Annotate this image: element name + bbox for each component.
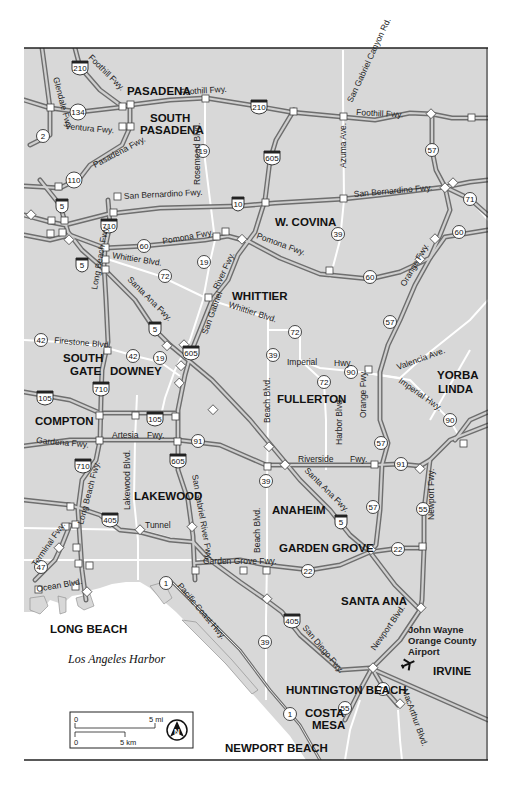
shield-number: 39 bbox=[334, 230, 343, 239]
state-route-shield-icon: 60 bbox=[364, 271, 377, 284]
shield-number: 19 bbox=[200, 258, 209, 267]
state-route-shield-icon: 110 bbox=[66, 172, 82, 188]
state-route-shield-icon: 90 bbox=[444, 414, 457, 427]
shield-number: 22 bbox=[304, 567, 313, 576]
shield-number: 605 bbox=[184, 349, 198, 358]
shield-number: 39 bbox=[269, 351, 278, 360]
state-route-shield-icon: 72 bbox=[289, 326, 302, 339]
shield-number: 57 bbox=[369, 503, 378, 512]
shield-number: 60 bbox=[140, 242, 149, 251]
shield-number: 39 bbox=[262, 477, 271, 486]
shield-number: 605 bbox=[265, 154, 279, 163]
shield-number: 72 bbox=[161, 272, 170, 281]
interstate-shield-icon: 5 bbox=[56, 199, 68, 213]
state-route-shield-icon: 57 bbox=[367, 501, 380, 514]
road-label: Garden Grove Fwy. bbox=[203, 556, 277, 566]
city-label: FULLERTON bbox=[277, 393, 346, 405]
compass-label: N bbox=[174, 727, 180, 736]
shield-number: 110 bbox=[68, 176, 81, 185]
shield-number: 39 bbox=[261, 638, 270, 647]
shield-number: 1 bbox=[164, 579, 169, 588]
interstate-shield-icon: 210 bbox=[251, 100, 267, 114]
interstate-shield-icon: 605 bbox=[264, 151, 280, 165]
shield-number: 710 bbox=[76, 462, 90, 471]
shield-number: 5 bbox=[153, 325, 158, 334]
city-label: DOWNEY bbox=[110, 365, 162, 377]
interstate-shield-icon: 5 bbox=[76, 258, 88, 272]
state-route-shield-icon: 1 bbox=[284, 708, 297, 721]
interstate-shield-icon: 605 bbox=[183, 346, 199, 360]
road-label: Beach Blvd. bbox=[262, 378, 272, 423]
state-route-shield-icon: 39 bbox=[332, 228, 345, 241]
shield-number: 42 bbox=[129, 352, 138, 361]
shield-number: 5 bbox=[339, 518, 344, 527]
shield-number: 405 bbox=[103, 516, 117, 525]
interstate-shield-icon: 405 bbox=[284, 614, 300, 628]
shield-number: 42 bbox=[37, 336, 46, 345]
road-label: Azuma Ave. bbox=[338, 123, 348, 168]
road-label: Riverside bbox=[298, 454, 334, 464]
shield-number: 57 bbox=[386, 318, 395, 327]
city-label: NEWPORT BEACH bbox=[225, 742, 328, 754]
state-route-shield-icon: 91 bbox=[395, 458, 408, 471]
airport-line-3: Airport bbox=[408, 646, 441, 657]
interstate-shield-icon: 405 bbox=[102, 513, 118, 527]
shield-number: 1 bbox=[288, 710, 293, 719]
city-label: COSTA bbox=[305, 707, 344, 719]
road-label: Orange Fwy. bbox=[358, 370, 368, 418]
state-route-shield-icon: 57 bbox=[375, 437, 388, 450]
state-route-shield-icon: 72 bbox=[159, 270, 172, 283]
interstate-shield-icon: 210 bbox=[72, 61, 88, 75]
city-label: IRVINE bbox=[433, 665, 471, 677]
harbor-label: Los Angeles Harbor bbox=[67, 652, 165, 666]
city-label: COMPTON bbox=[35, 415, 94, 427]
city-label: W. COVINA bbox=[275, 216, 336, 228]
city-label: SOUTH bbox=[150, 112, 190, 124]
shield-number: 105 bbox=[148, 415, 162, 424]
city-label: ANAHEIM bbox=[272, 504, 326, 516]
city-label: PASADENA bbox=[127, 85, 191, 97]
state-route-shield-icon: 57 bbox=[384, 316, 397, 329]
city-label: SOUTH bbox=[63, 352, 103, 364]
map: 2102101342110195760551071071606060395197… bbox=[0, 0, 514, 802]
city-label: MESA bbox=[312, 719, 345, 731]
shield-number: 10 bbox=[234, 200, 243, 209]
scale-bar: 0 5 mi 0 5 km N bbox=[70, 712, 193, 748]
interstate-shield-icon: 105 bbox=[37, 391, 53, 405]
state-route-shield-icon: 42 bbox=[35, 334, 48, 347]
scale-mi-end: 5 mi bbox=[149, 715, 164, 724]
shield-number: 60 bbox=[366, 273, 375, 282]
state-route-shield-icon: 39 bbox=[260, 475, 273, 488]
airport-line-1: John Wayne bbox=[408, 624, 464, 635]
shield-number: 210 bbox=[252, 103, 266, 112]
road-label: Fwy. bbox=[350, 454, 367, 464]
shield-number: 2 bbox=[41, 132, 46, 141]
interstate-shield-icon: 5 bbox=[335, 515, 347, 529]
city-label: LONG BEACH bbox=[50, 623, 127, 635]
state-route-shield-icon: 71 bbox=[464, 193, 477, 206]
shield-number: 91 bbox=[194, 437, 203, 446]
shield-number: 72 bbox=[320, 378, 329, 387]
interstate-shield-icon: 105 bbox=[147, 412, 163, 426]
interstate-shield-icon: 605 bbox=[170, 454, 186, 468]
interstate-shield-icon: 710 bbox=[93, 382, 109, 396]
shield-number: 5 bbox=[60, 202, 65, 211]
city-label: WHITTIER bbox=[232, 290, 288, 302]
state-route-shield-icon: 19 bbox=[198, 256, 211, 269]
city-label: YORBA bbox=[437, 369, 479, 381]
interstate-shield-icon: 5 bbox=[149, 322, 161, 336]
north-arrow-icon: N bbox=[167, 720, 187, 740]
shield-number: 90 bbox=[446, 416, 455, 425]
state-route-shield-icon: 2 bbox=[37, 130, 50, 143]
shield-number: 71 bbox=[466, 195, 475, 204]
shield-number: 72 bbox=[291, 328, 300, 337]
scale-mi-start: 0 bbox=[74, 715, 78, 724]
shield-number: 19 bbox=[156, 354, 165, 363]
shield-number: 134 bbox=[71, 108, 85, 117]
road-label: Imperial bbox=[287, 357, 317, 367]
state-route-shield-icon: 39 bbox=[267, 349, 280, 362]
shield-number: 22 bbox=[394, 545, 403, 554]
shield-number: 605 bbox=[171, 457, 185, 466]
city-label: GATE bbox=[70, 365, 101, 377]
shield-number: 105 bbox=[38, 394, 52, 403]
